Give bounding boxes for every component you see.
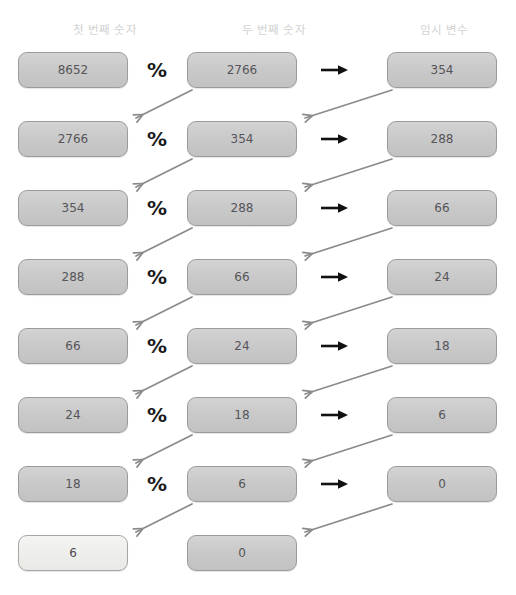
column-header-second-number: 두 번째 숫자 — [216, 21, 332, 37]
value-box-label: 0 — [238, 546, 246, 560]
value-box-label: 24 — [234, 339, 249, 353]
value-box-second-number: 66 — [187, 259, 297, 295]
value-box-second-number: 288 — [187, 190, 297, 226]
value-box-label: 6 — [238, 477, 246, 491]
value-box-label: 288 — [62, 270, 85, 284]
value-box-temp-variable: 6 — [387, 397, 497, 433]
value-box-second-number: 24 — [187, 328, 297, 364]
column-header-first-number: 첫 번째 숫자 — [47, 21, 163, 37]
value-box-label: 18 — [234, 408, 249, 422]
value-box-label: 66 — [65, 339, 80, 353]
value-box-second-number: 2766 — [187, 52, 297, 88]
assign-arrow-icon — [318, 474, 352, 494]
value-box-label: 288 — [231, 201, 254, 215]
value-box-label: 18 — [65, 477, 80, 491]
assign-arrow-icon — [318, 405, 352, 425]
modulo-operator: % — [142, 472, 172, 496]
value-box-label: 354 — [431, 63, 454, 77]
assign-arrow-icon — [318, 129, 352, 149]
value-box-temp-variable: 288 — [387, 121, 497, 157]
value-box-label: 354 — [231, 132, 254, 146]
modulo-operator: % — [142, 265, 172, 289]
gcd-trace-diagram: 첫 번째 숫자 두 번째 숫자 임시 변수 86522766354%276635… — [0, 0, 516, 595]
assign-arrow-icon — [318, 336, 352, 356]
value-box-label: 8652 — [58, 63, 89, 77]
value-box-label: 24 — [65, 408, 80, 422]
value-box-label: 18 — [434, 339, 449, 353]
value-box-label: 0 — [438, 477, 446, 491]
value-box-second-number: 18 — [187, 397, 297, 433]
assign-arrow-icon — [318, 267, 352, 287]
value-box-second-number: 6 — [187, 466, 297, 502]
value-box-temp-variable: 66 — [387, 190, 497, 226]
modulo-operator: % — [142, 196, 172, 220]
value-box-first-number: 6 — [18, 535, 128, 571]
value-box-label: 6 — [69, 546, 77, 560]
value-box-label: 354 — [62, 201, 85, 215]
box-layer: 첫 번째 숫자 두 번째 숫자 임시 변수 86522766354%276635… — [0, 0, 516, 595]
value-box-first-number: 24 — [18, 397, 128, 433]
assign-arrow-icon — [318, 198, 352, 218]
value-box-label: 66 — [234, 270, 249, 284]
value-box-label: 2766 — [227, 63, 258, 77]
column-header-temp-variable: 임시 변수 — [386, 21, 502, 37]
value-box-temp-variable: 354 — [387, 52, 497, 88]
value-box-temp-variable: 18 — [387, 328, 497, 364]
value-box-label: 24 — [434, 270, 449, 284]
modulo-operator: % — [142, 58, 172, 82]
value-box-label: 66 — [434, 201, 449, 215]
value-box-first-number: 354 — [18, 190, 128, 226]
assign-arrow-icon — [318, 60, 352, 80]
value-box-first-number: 66 — [18, 328, 128, 364]
value-box-label: 6 — [438, 408, 446, 422]
value-box-first-number: 8652 — [18, 52, 128, 88]
value-box-temp-variable: 24 — [387, 259, 497, 295]
value-box-second-number: 354 — [187, 121, 297, 157]
value-box-label: 288 — [431, 132, 454, 146]
value-box-label: 2766 — [58, 132, 89, 146]
value-box-temp-variable: 0 — [387, 466, 497, 502]
value-box-second-number: 0 — [187, 535, 297, 571]
modulo-operator: % — [142, 334, 172, 358]
modulo-operator: % — [142, 127, 172, 151]
value-box-first-number: 18 — [18, 466, 128, 502]
value-box-first-number: 2766 — [18, 121, 128, 157]
value-box-first-number: 288 — [18, 259, 128, 295]
modulo-operator: % — [142, 403, 172, 427]
